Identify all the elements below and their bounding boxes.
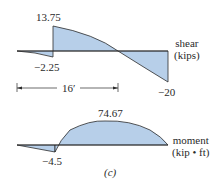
moment-min-value: −4.5 bbox=[42, 155, 62, 167]
moment-max-value: 74.67 bbox=[98, 107, 123, 119]
moment-diagram bbox=[17, 121, 168, 152]
shear-axis-label: shear (kips) bbox=[174, 37, 200, 61]
figure-label: (c) bbox=[104, 166, 116, 178]
moment-axis-label: moment (kip • ft) bbox=[172, 134, 209, 158]
shear-max-value: 13.75 bbox=[36, 11, 61, 23]
dimension-label: 16′ bbox=[62, 82, 75, 94]
shear-diagram bbox=[17, 26, 168, 82]
shear-left-min-value: −2.25 bbox=[34, 61, 59, 73]
shear-right-min-value: −20 bbox=[158, 86, 175, 98]
